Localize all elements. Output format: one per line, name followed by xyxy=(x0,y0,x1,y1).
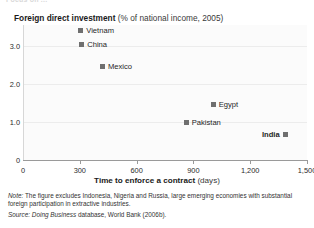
data-point-vietnam: Vietnam xyxy=(78,28,83,33)
data-point-marker xyxy=(100,64,105,69)
data-point-label: China xyxy=(87,40,107,49)
source-line: Source: Doing Business database, World B… xyxy=(8,211,308,219)
x-tick-900 xyxy=(193,160,194,164)
x-axis-title-unit: (days) xyxy=(197,176,220,185)
x-axis-title-main: Time to enforce a contract xyxy=(94,176,195,185)
x-tick-1200 xyxy=(250,160,251,164)
data-point-marker xyxy=(211,102,216,107)
note-label: Note: xyxy=(8,192,23,199)
data-point-label: India xyxy=(262,130,280,139)
source-text-rest: database, World Bank (2006b). xyxy=(76,211,166,218)
gridline-y-1 xyxy=(24,122,307,123)
clipped-header-strip: Focus on ... xyxy=(0,0,314,9)
figure-container: Focus on ... Foreign direct investment (… xyxy=(0,0,314,228)
chart-title-subtitle: (% of national income, 2005) xyxy=(118,13,224,23)
source-label: Source: xyxy=(8,211,30,218)
data-point-egypt: Egypt xyxy=(211,102,216,107)
x-axis-title: Time to enforce a contract (days) xyxy=(0,176,314,185)
x-tick-1500 xyxy=(307,160,308,164)
gridline-y-2 xyxy=(24,84,307,85)
y-tick-label-0: 0 xyxy=(0,156,20,165)
y-tick-label-3: 3.0 xyxy=(0,42,20,51)
x-tick-600 xyxy=(137,160,138,164)
x-tick-label-300: 300 xyxy=(74,166,86,175)
data-point-label: Mexico xyxy=(108,62,132,71)
source-text-italic: Doing Business xyxy=(30,211,76,218)
data-point-marker xyxy=(184,120,189,125)
x-tick-label-1200: 1,200 xyxy=(241,166,260,175)
data-point-pakistan: Pakistan xyxy=(184,120,189,125)
y-tick-label-1: 1.0 xyxy=(0,118,20,127)
data-point-marker xyxy=(78,28,83,33)
gridline-y-3 xyxy=(24,46,307,47)
x-tick-300 xyxy=(80,160,81,164)
data-point-label: Vietnam xyxy=(86,26,114,35)
x-axis-line xyxy=(23,160,307,161)
note-line: Note: The figure excludes Indonesia, Nig… xyxy=(8,192,308,208)
y-tick-label-2: 2.0 xyxy=(0,80,20,89)
x-tick-label-1500: 1,500 xyxy=(298,166,314,175)
data-point-india: India xyxy=(283,132,288,137)
data-point-marker xyxy=(283,132,288,137)
data-point-label: Pakistan xyxy=(192,118,221,127)
data-point-label: Egypt xyxy=(219,100,238,109)
data-point-marker xyxy=(79,42,84,47)
chart-title: Foreign direct investment (% of national… xyxy=(14,13,223,23)
note-text: The figure excludes Indonesia, Nigeria a… xyxy=(8,192,292,207)
x-tick-label-900: 900 xyxy=(187,166,199,175)
chart-title-main: Foreign direct investment xyxy=(14,13,115,23)
data-point-china: China xyxy=(79,42,84,47)
x-tick-label-0: 0 xyxy=(21,166,25,175)
data-point-mexico: Mexico xyxy=(100,64,105,69)
figure-notes: Note: The figure excludes Indonesia, Nig… xyxy=(8,192,308,220)
plot-area xyxy=(23,25,307,160)
clipped-header-text: Focus on ... xyxy=(6,0,314,3)
x-tick-label-600: 600 xyxy=(130,166,142,175)
